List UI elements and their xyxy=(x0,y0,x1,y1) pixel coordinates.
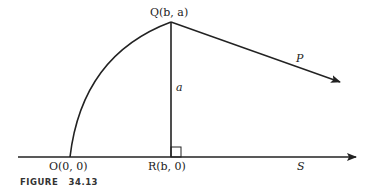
vector-p-label: P xyxy=(296,52,303,65)
right-angle-marker xyxy=(171,147,181,157)
side-a-label: a xyxy=(176,81,183,94)
vector-p-line xyxy=(171,22,340,82)
arc-o-to-q xyxy=(70,22,171,157)
point-o-label: O(0, 0) xyxy=(49,160,88,173)
caption-prefix: FIGURE xyxy=(20,177,58,187)
point-q-label: Q(b, a) xyxy=(150,6,188,19)
caption-number: 34.13 xyxy=(69,177,98,187)
axis-s-label: S xyxy=(297,160,305,173)
figure-caption: FIGURE 34.13 xyxy=(20,177,98,187)
point-r-label: R(b, 0) xyxy=(148,160,186,173)
